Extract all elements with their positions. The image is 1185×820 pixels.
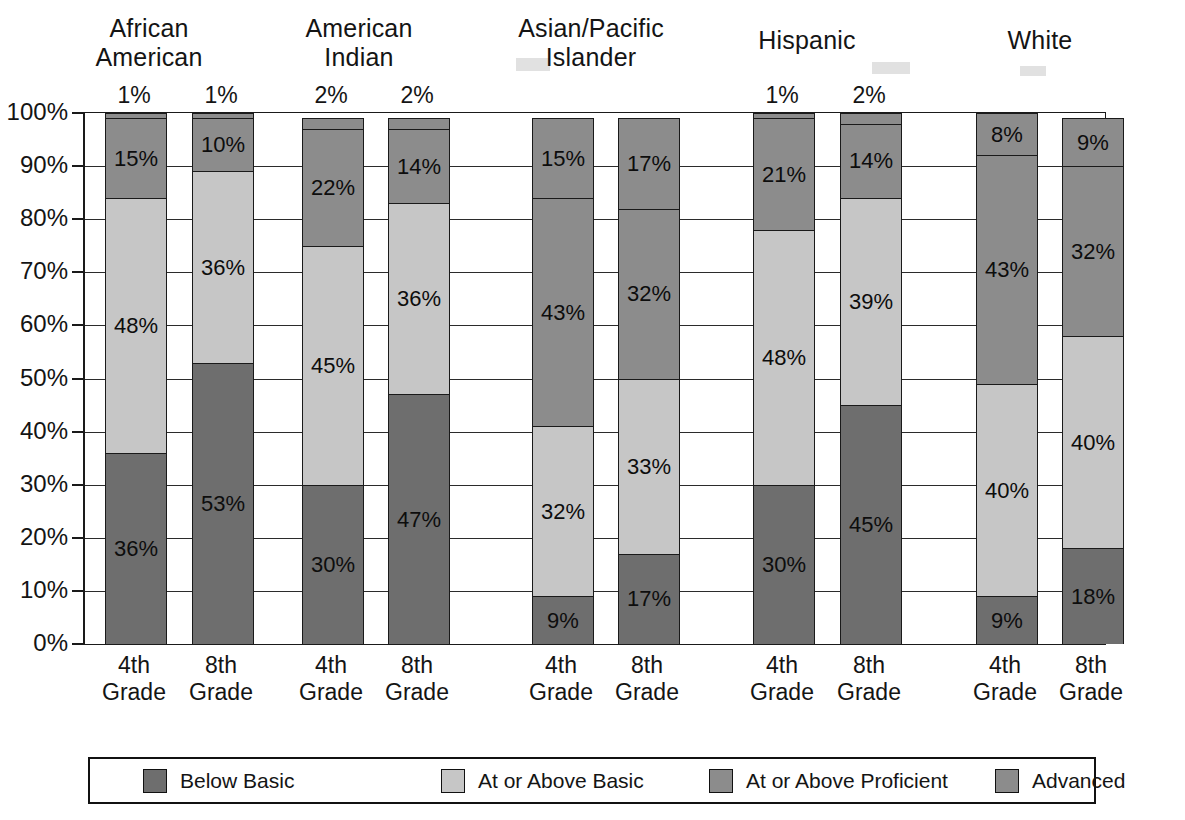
legend-item-4[interactable]: Advanced: [995, 759, 1125, 802]
bar-segment-at_or_above_proficient[interactable]: 10%: [192, 118, 254, 171]
bar-segment-label: 39%: [849, 291, 893, 313]
bar-segment-at_or_above_basic[interactable]: 32%: [532, 426, 594, 596]
stacked-bar-chart: African AmericanAmerican IndianAsian/Pac…: [0, 0, 1185, 820]
bar-segment-label: 30%: [311, 554, 355, 576]
chart-legend: Below BasicAt or Above BasicAt or Above …: [88, 757, 1096, 804]
y-axis-tick-label: 100%: [0, 100, 68, 124]
bar-segment-at_or_above_basic[interactable]: 48%: [753, 230, 815, 485]
bar-segment-advanced[interactable]: [105, 113, 167, 118]
bar-segment-at_or_above_basic[interactable]: 33%: [618, 379, 680, 554]
stacked-bar[interactable]: 9%40%43%8%: [976, 113, 1038, 644]
legend-swatch-icon: [995, 769, 1019, 793]
bar-segment-label: 53%: [201, 493, 245, 515]
bar-segment-below_basic[interactable]: 30%: [753, 485, 815, 644]
bar-segment-label: 48%: [762, 347, 806, 369]
group-header-2: American Indian: [229, 14, 489, 72]
bar-segment-at_or_above_basic[interactable]: 36%: [388, 203, 450, 394]
bar-segment-below_basic[interactable]: 53%: [192, 363, 254, 644]
bar-segment-below_basic[interactable]: 9%: [532, 596, 594, 644]
bar-segment-advanced[interactable]: 15%: [532, 118, 594, 198]
bar-segment-label: 17%: [627, 588, 671, 610]
scan-artifact: [1020, 66, 1046, 76]
y-axis-tick-label: 0%: [0, 631, 68, 655]
bar-top-label: 2%: [352, 84, 482, 107]
bar-segment-at_or_above_basic[interactable]: 40%: [976, 384, 1038, 596]
bar-segment-label: 22%: [311, 177, 355, 199]
bar-segment-at_or_above_basic[interactable]: 40%: [1062, 336, 1124, 548]
plot-area: 36%48%15%53%36%10%30%45%22%47%36%14%9%32…: [83, 112, 1106, 645]
bar-segment-label: 32%: [1071, 241, 1115, 263]
stacked-bar[interactable]: 36%48%15%: [105, 113, 167, 644]
y-axis-tick-label: 80%: [0, 206, 68, 230]
x-axis-label: 8th Grade: [1016, 652, 1166, 706]
bar-segment-below_basic[interactable]: 36%: [105, 453, 167, 644]
bar-segment-below_basic[interactable]: 30%: [302, 485, 364, 644]
bar-segment-advanced[interactable]: 17%: [618, 118, 680, 208]
bar-segment-at_or_above_proficient[interactable]: 32%: [1062, 166, 1124, 336]
bar-segment-below_basic[interactable]: 17%: [618, 554, 680, 644]
bar-segment-at_or_above_proficient[interactable]: 14%: [388, 129, 450, 203]
bar-segment-label: 30%: [762, 554, 806, 576]
bar-segment-advanced[interactable]: [840, 113, 902, 124]
x-axis-label: 8th Grade: [342, 652, 492, 706]
bar-segment-at_or_above_proficient[interactable]: 43%: [976, 155, 1038, 383]
y-axis-tick-label: 10%: [0, 578, 68, 602]
bar-segment-label: 32%: [541, 501, 585, 523]
bar-segment-below_basic[interactable]: 9%: [976, 596, 1038, 644]
bar-segment-label: 9%: [991, 610, 1023, 632]
legend-item-1[interactable]: Below Basic: [143, 759, 294, 802]
bar-segment-at_or_above_proficient[interactable]: 15%: [105, 118, 167, 198]
stacked-bar[interactable]: 18%40%32%9%: [1062, 113, 1124, 644]
y-axis-tick-label: 50%: [0, 366, 68, 390]
bar-segment-at_or_above_basic[interactable]: 36%: [192, 171, 254, 362]
stacked-bar[interactable]: 45%39%14%: [840, 113, 902, 644]
stacked-bar[interactable]: 30%48%21%: [753, 113, 815, 644]
bar-segment-label: 48%: [114, 315, 158, 337]
bar-segment-advanced[interactable]: [302, 118, 364, 129]
bar-segment-label: 14%: [397, 156, 441, 178]
bar-segment-advanced[interactable]: 9%: [1062, 118, 1124, 166]
bar-segment-at_or_above_basic[interactable]: 45%: [302, 246, 364, 485]
bar-segment-label: 18%: [1071, 586, 1115, 608]
legend-item-3[interactable]: At or Above Proficient: [709, 759, 948, 802]
bar-segment-label: 36%: [397, 288, 441, 310]
bar-segment-label: 43%: [985, 259, 1029, 281]
bar-segment-at_or_above_basic[interactable]: 48%: [105, 198, 167, 453]
bar-segment-label: 15%: [541, 148, 585, 170]
bar-segment-at_or_above_proficient[interactable]: 32%: [618, 209, 680, 379]
bar-segment-label: 32%: [627, 283, 671, 305]
bar-segment-at_or_above_basic[interactable]: 39%: [840, 198, 902, 405]
bar-segment-advanced[interactable]: [753, 113, 815, 118]
stacked-bar[interactable]: 9%32%43%15%: [532, 113, 594, 644]
legend-swatch-icon: [709, 769, 733, 793]
group-header-4: Hispanic: [677, 26, 937, 55]
bar-top-label: 2%: [804, 84, 934, 107]
y-axis-tick-label: 60%: [0, 312, 68, 336]
legend-label: At or Above Basic: [478, 770, 644, 791]
bar-segment-at_or_above_proficient[interactable]: 21%: [753, 118, 815, 230]
stacked-bar[interactable]: 17%33%32%17%: [618, 113, 680, 644]
stacked-bar[interactable]: 47%36%14%: [388, 113, 450, 644]
bar-segment-below_basic[interactable]: 18%: [1062, 548, 1124, 644]
y-axis-tick-label: 30%: [0, 472, 68, 496]
legend-item-2[interactable]: At or Above Basic: [441, 759, 644, 802]
bar-segment-at_or_above_proficient[interactable]: 14%: [840, 124, 902, 198]
bar-segment-label: 40%: [1071, 432, 1115, 454]
bar-segment-advanced[interactable]: [192, 113, 254, 118]
bar-segment-at_or_above_proficient[interactable]: 22%: [302, 129, 364, 246]
x-axis-label: 8th Grade: [572, 652, 722, 706]
bar-segment-label: 14%: [849, 150, 893, 172]
bar-segment-at_or_above_proficient[interactable]: 43%: [532, 198, 594, 426]
legend-swatch-icon: [143, 769, 167, 793]
bar-segment-advanced[interactable]: 8%: [976, 113, 1038, 155]
y-axis-tick-label: 70%: [0, 259, 68, 283]
bar-segment-label: 43%: [541, 302, 585, 324]
stacked-bar[interactable]: 53%36%10%: [192, 113, 254, 644]
bar-segment-below_basic[interactable]: 47%: [388, 394, 450, 644]
bar-segment-label: 45%: [849, 514, 893, 536]
bar-segment-label: 9%: [547, 610, 579, 632]
x-axis-label: 8th Grade: [794, 652, 944, 706]
stacked-bar[interactable]: 30%45%22%: [302, 113, 364, 644]
bar-segment-below_basic[interactable]: 45%: [840, 405, 902, 644]
bar-segment-advanced[interactable]: [388, 118, 450, 129]
